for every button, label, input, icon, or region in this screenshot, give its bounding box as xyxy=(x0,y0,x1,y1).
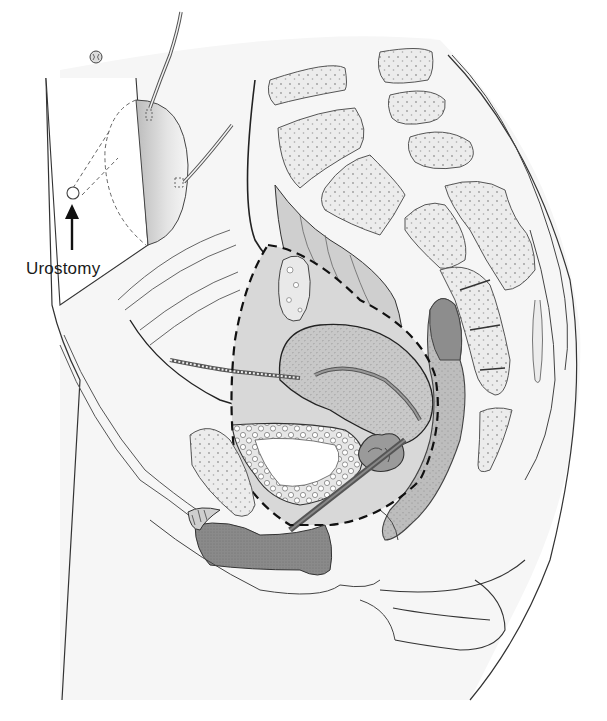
pelvic-anatomy-illustration xyxy=(0,0,607,721)
stoma-icon xyxy=(67,187,79,199)
tumor xyxy=(359,434,404,472)
ovary xyxy=(279,256,311,321)
umbilicus-icon xyxy=(90,51,102,63)
urostomy-label: Urostomy xyxy=(26,259,100,279)
